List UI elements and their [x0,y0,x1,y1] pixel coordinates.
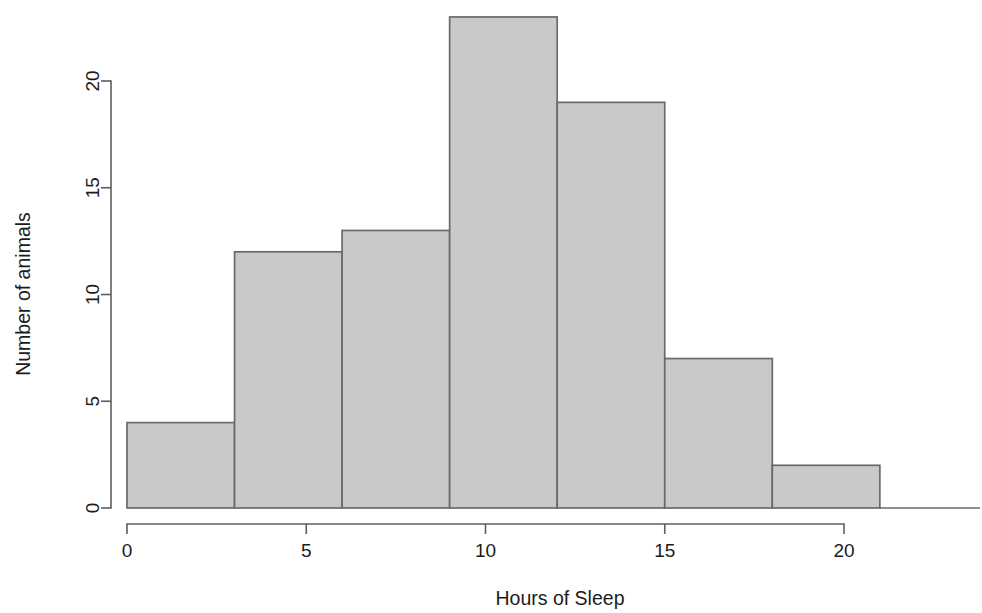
x-axis-title: Hours of Sleep [496,587,625,609]
x-axis-tick-label: 15 [654,540,675,561]
histogram-figure: 05101520 05101520 Number of animals Hour… [0,0,982,613]
y-axis-tick-label: 15 [82,177,103,198]
histogram-bar [665,359,773,508]
y-axis: 05101520 [82,70,112,513]
histogram-canvas: 05101520 05101520 Number of animals Hour… [0,0,982,613]
y-axis-tick-label: 5 [82,396,103,407]
y-axis-tick-label: 0 [82,503,103,514]
x-axis: 05101520 [122,524,855,561]
histogram-bar [557,102,665,508]
x-axis-tick-label: 20 [833,540,854,561]
y-axis-title: Number of animals [12,212,34,376]
histogram-bar [235,252,343,508]
histogram-bars [127,17,880,508]
x-axis-tick-label: 10 [475,540,496,561]
y-axis-tick-label: 20 [82,70,103,91]
histogram-bar [127,423,235,508]
y-axis-tick-label: 10 [82,284,103,305]
x-axis-tick-label: 0 [122,540,133,561]
histogram-bar [342,230,450,508]
histogram-bar [772,465,880,508]
histogram-bar [450,17,558,508]
x-axis-tick-label: 5 [301,540,312,561]
